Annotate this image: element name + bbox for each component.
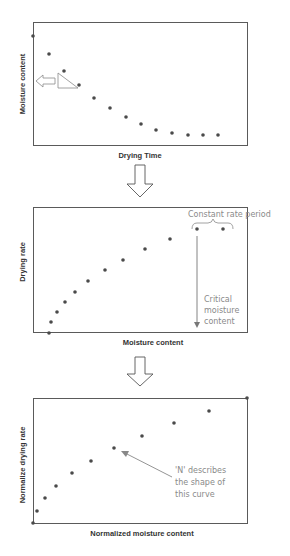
- down-arrow-icon: [127, 165, 153, 197]
- constant-rate-label: Constant rate period: [188, 210, 271, 219]
- plot-frame: [34, 23, 248, 146]
- brace-icon: [192, 219, 233, 229]
- data-points: [47, 227, 225, 335]
- x-axis-label: Normalized moisture content: [90, 529, 194, 538]
- slope-triangle-icon: [58, 73, 78, 88]
- critical-label-line-1: Critical: [204, 295, 232, 304]
- chart-rate-vs-moisture: Moisture content Drying rate Constant ra…: [18, 208, 271, 348]
- y-axis-label: Moisture content: [18, 53, 27, 114]
- n-arrow-line: [125, 453, 172, 477]
- down-arrow-icon: [127, 357, 153, 386]
- left-arrow-icon: [36, 75, 55, 87]
- critical-label-line-3: content: [204, 317, 235, 326]
- chart-normalized: Normalized moisture content Normalize dr…: [18, 396, 249, 538]
- y-axis-label: Normalize drying rate: [18, 427, 27, 504]
- y-axis-label: Drying rate: [18, 242, 27, 282]
- x-axis-label: Moisture content: [123, 338, 184, 347]
- n-label-line-2: the shape of: [175, 478, 225, 487]
- n-label-line-1: 'N' describes: [175, 466, 226, 475]
- critical-arrow-head-icon: [194, 322, 200, 328]
- n-label-line-3: this curve: [175, 490, 215, 499]
- data-points: [31, 34, 220, 137]
- chart-moisture-vs-time: Drying Time Moisture content: [18, 23, 248, 161]
- drying-diagram: Drying Time Moisture content Moisture co…: [0, 0, 290, 556]
- critical-label-line-2: moisture: [204, 306, 239, 315]
- x-axis-label: Drying Time: [118, 151, 161, 160]
